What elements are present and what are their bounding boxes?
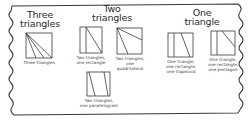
heading-two-triangles: Two triangles bbox=[92, 4, 132, 22]
caption-two-triangles-quadrilateral: Two triangles, one quadrilateral bbox=[110, 56, 150, 71]
figure-triangle-rectangle-trapezoid bbox=[168, 33, 193, 57]
caption-two-triangles-parallelogram: Two triangles, one parallelogram bbox=[78, 98, 120, 108]
caption-two-triangles-rectangle: Two triangles, one rectangle bbox=[71, 55, 111, 65]
heading-three-triangles: Three triangles bbox=[20, 10, 60, 28]
caption-line: Three triangles bbox=[19, 60, 59, 65]
heading-line: triangles bbox=[92, 13, 132, 22]
caption-triangle-rectangle-pentagon: One triangle, one rectangle, one pentago… bbox=[203, 57, 243, 72]
caption-line: one pentagon bbox=[203, 67, 243, 72]
figure-three-triangles bbox=[26, 33, 52, 58]
heading-line: triangles bbox=[20, 19, 60, 28]
caption-triangle-rectangle-trapezoid: One triangle, one rectangle, one trapezo… bbox=[161, 59, 201, 74]
caption-line: quadrilateral bbox=[110, 66, 150, 71]
heading-line: triangle bbox=[182, 17, 222, 26]
figure-two-triangles-quadrilateral bbox=[117, 28, 142, 54]
figure-triangle-rectangle-pentagon bbox=[211, 31, 235, 55]
figure-two-triangles-rectangle bbox=[80, 27, 102, 53]
caption-line: one trapezoid bbox=[161, 69, 201, 74]
caption-three-triangles: Three triangles bbox=[19, 60, 59, 65]
caption-line: one parallelogram bbox=[78, 103, 120, 108]
figure-two-triangles-parallelogram bbox=[87, 72, 110, 96]
caption-line: one rectangle bbox=[71, 60, 111, 65]
heading-one-triangle: One triangle bbox=[182, 8, 222, 26]
